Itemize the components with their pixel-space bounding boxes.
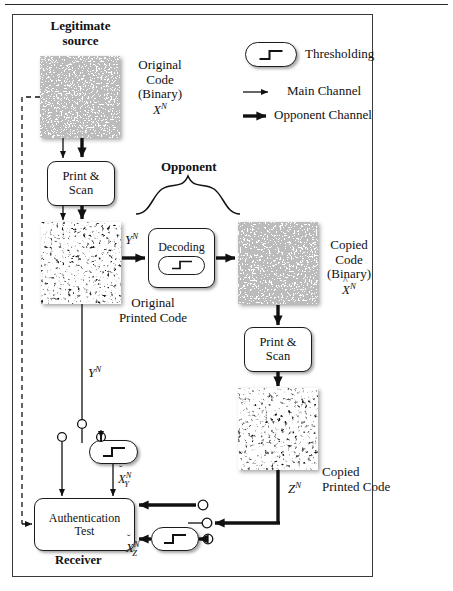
receiver-label: Receiver: [55, 553, 102, 567]
page-top-rule: [5, 4, 448, 5]
decoding-box[interactable]: Decoding: [148, 228, 215, 288]
opponent-label: Opponent: [161, 160, 217, 175]
copied-code-patch: [238, 222, 318, 304]
authentication-test-label: Authentication Test: [49, 512, 120, 538]
legend-main-channel-label: Main Channel: [287, 84, 361, 99]
print-scan-right-box[interactable]: Print & Scan: [244, 327, 312, 372]
authentication-test-box[interactable]: Authentication Test: [34, 498, 135, 551]
figure-canvas: Print & Scan Decoding Print & Scan Authe…: [0, 0, 453, 591]
signal-label-x-check-z: ˇXNZ: [126, 540, 137, 558]
print-scan-left-label: Print & Scan: [62, 170, 99, 197]
copied-printed-code-caption: Copied Printed Code: [322, 465, 390, 494]
print-scan-right-label: Print & Scan: [259, 336, 296, 363]
signal-label-x-check-y: ˇXNY: [118, 471, 129, 489]
legend-thresholding-label: Thresholding: [305, 47, 374, 62]
copied-code-caption: Copied Code (Binary) ^XN: [318, 238, 380, 298]
decoding-threshold-icon: [158, 256, 205, 275]
print-scan-left-box[interactable]: Print & Scan: [47, 161, 115, 206]
signal-label-y-main: YN: [125, 232, 138, 248]
thresholding-pill-y[interactable]: [89, 440, 138, 464]
legitimate-source-label: Legitimate source: [28, 19, 133, 48]
legend-thresholding-icon: [245, 42, 297, 67]
original-code-caption: Original Code (Binary) XN: [124, 58, 196, 118]
copied-printed-code-patch: [238, 388, 318, 470]
original-printed-code-caption: Original Printed Code: [98, 296, 208, 325]
signal-label-z: ZN: [288, 481, 301, 497]
original-printed-code-patch: [41, 222, 121, 304]
original-code-patch: [40, 56, 120, 138]
decoding-label: Decoding: [158, 241, 205, 254]
copied-code-symbol: ^XN: [342, 282, 356, 297]
signal-label-y-branch: YN: [88, 365, 101, 381]
thresholding-pill-z[interactable]: [151, 527, 199, 551]
original-code-symbol: XN: [153, 102, 167, 117]
legend-opponent-channel-label: Opponent Channel: [274, 108, 372, 123]
